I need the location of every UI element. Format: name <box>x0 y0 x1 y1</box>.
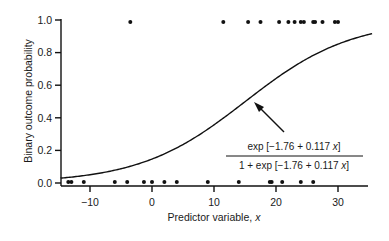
x-axis-label: Predictor variable, x <box>168 211 262 223</box>
data-point <box>82 180 86 184</box>
x-tick-label: 30 <box>332 196 344 208</box>
data-point <box>206 180 210 184</box>
y-tick-label: 0.8 <box>37 46 52 58</box>
x-tick-label: 10 <box>208 196 220 208</box>
x-axis-ticks: −100102030 <box>81 186 344 208</box>
y-axis-label: Binary outcome probability <box>22 38 34 162</box>
formula-denominator: 1 + exp [−1.76 + 0.117 x] <box>239 160 349 171</box>
data-point <box>246 20 250 24</box>
logistic-regression-chart: Binary outcome probability 0.00.20.40.60… <box>0 0 389 241</box>
denominator-bracket: ] <box>346 160 349 171</box>
x-tick-label: 20 <box>270 196 282 208</box>
y-tick-label: 0.2 <box>37 144 52 156</box>
annotation-arrow <box>254 102 284 132</box>
fitted-logistic-curve <box>61 34 372 179</box>
x-axis-label-main: Predictor variable, <box>168 211 256 223</box>
y-tick-label: 0.6 <box>37 79 52 91</box>
data-points-outcome-0 <box>66 180 315 184</box>
data-point <box>142 180 146 184</box>
data-point <box>69 180 73 184</box>
data-point <box>277 20 281 24</box>
formula-annotation: exp [−1.76 + 0.117 x] 1 + exp [−1.76 + 0… <box>226 141 363 171</box>
y-axis-ticks: 0.00.20.40.60.81.0 <box>37 14 61 189</box>
y-tick-label: 0.4 <box>37 112 52 124</box>
data-point <box>336 20 340 24</box>
data-point <box>321 20 325 24</box>
data-point <box>128 20 132 24</box>
data-point <box>125 180 129 184</box>
data-point <box>313 20 317 24</box>
data-point <box>113 180 117 184</box>
y-tick-label: 0.0 <box>37 177 52 189</box>
data-point <box>221 20 225 24</box>
data-point <box>259 20 263 24</box>
data-point <box>270 180 274 184</box>
data-point <box>286 20 290 24</box>
data-point <box>150 180 154 184</box>
data-points-outcome-1 <box>128 20 340 24</box>
y-tick-label: 1.0 <box>37 14 52 26</box>
data-point <box>311 180 315 184</box>
denominator-text: 1 + exp [−1.76 + 0.117 <box>239 160 341 171</box>
data-point <box>280 180 284 184</box>
data-point <box>299 180 303 184</box>
data-point <box>302 20 306 24</box>
data-point <box>237 180 241 184</box>
numerator-bracket: ] <box>338 141 341 152</box>
data-point <box>162 180 166 184</box>
data-point <box>175 180 179 184</box>
x-tick-label: −10 <box>81 196 99 208</box>
data-point <box>293 20 297 24</box>
x-tick-label: 0 <box>149 196 155 208</box>
formula-numerator: exp [−1.76 + 0.117 x] <box>247 141 340 152</box>
numerator-text: exp [−1.76 + 0.117 <box>247 141 332 152</box>
x-axis-label-variable: x <box>254 211 261 223</box>
